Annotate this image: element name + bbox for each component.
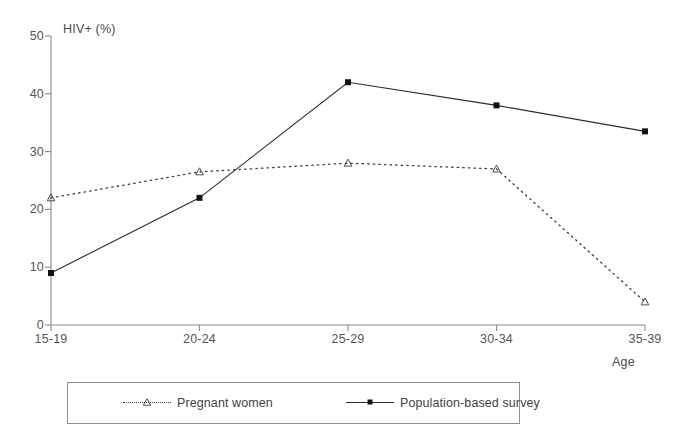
y-tick-10: 10 (18, 261, 44, 274)
filled-square-marker-icon (345, 79, 351, 85)
x-tick-15-19: 15-19 (35, 332, 68, 346)
open-triangle-marker-icon (143, 395, 152, 409)
x-tick-25-29: 25-29 (332, 332, 365, 346)
x-axis-tick-labels: 15-19 20-24 25-29 30-34 35-39 (0, 332, 674, 350)
x-tick-20-24: 20-24 (183, 332, 216, 346)
x-axis-title: Age (612, 355, 635, 369)
chart-legend: Pregnant women Population-based survey (67, 382, 520, 424)
y-axis-title: HIV+ (%) (63, 22, 116, 36)
legend-label-population-based-survey: Population-based survey (400, 396, 540, 410)
y-tick-50: 50 (18, 30, 44, 43)
open-triangle-marker-icon (344, 159, 352, 166)
open-triangle-marker-icon (641, 298, 649, 305)
legend-label-pregnant-women: Pregnant women (177, 396, 273, 410)
filled-square-marker-icon (368, 400, 373, 405)
series-population-based-survey (48, 79, 648, 276)
series-line (51, 82, 645, 273)
y-tick-20: 20 (18, 203, 44, 216)
series-line (51, 163, 645, 302)
legend-swatch-population-based-survey (346, 397, 394, 409)
y-tick-30: 30 (18, 145, 44, 158)
legend-swatch-pregnant-women (123, 397, 171, 409)
chart-plot-canvas (0, 0, 674, 432)
y-axis-tick-labels: 50 40 30 20 10 0 (14, 36, 44, 325)
x-tick-30-34: 30-34 (480, 332, 513, 346)
y-tick-40: 40 (18, 88, 44, 101)
filled-square-marker-icon (642, 128, 648, 134)
y-axis-ticks (45, 36, 51, 325)
legend-item-population-based-survey[interactable]: Population-based survey (346, 394, 540, 412)
filled-square-marker-icon (48, 270, 54, 276)
chart-figure: 50 40 30 20 10 0 HIV+ (%) 15-19 20-24 25… (0, 0, 674, 432)
x-axis-ticks (51, 325, 645, 331)
series-pregnant-women (47, 159, 649, 305)
filled-square-marker-icon (494, 102, 500, 108)
legend-item-pregnant-women[interactable]: Pregnant women (123, 394, 273, 412)
series-layer (47, 79, 649, 305)
filled-square-marker-icon (197, 195, 203, 201)
x-tick-35-39: 35-39 (629, 332, 662, 346)
y-tick-0: 0 (18, 319, 44, 332)
